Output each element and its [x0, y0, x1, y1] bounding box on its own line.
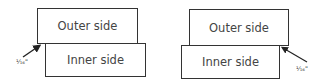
left-arrow-icon: [23, 46, 39, 57]
arrows-layer: [0, 0, 326, 84]
right-arrow-icon: [283, 48, 307, 62]
